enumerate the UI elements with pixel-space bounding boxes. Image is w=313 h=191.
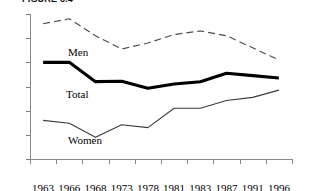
x-tick-label: 1978 [137, 182, 159, 191]
x-tick [161, 159, 162, 164]
series-label-men: Men [68, 46, 88, 58]
plot-area: 2345678 19631966196819731978198119831987… [30, 14, 292, 159]
x-tick [135, 159, 136, 164]
series-label-women: Women [68, 134, 102, 146]
x-tick-label: 1973 [111, 182, 133, 191]
x-tick [292, 159, 293, 164]
x-tick [213, 159, 214, 164]
series-label-total: Total [66, 88, 88, 100]
x-tick-label: 1983 [189, 182, 211, 191]
chart-title: FIGURE 3.4 [22, 0, 73, 4]
line-chart: FIGURE 3.4 2345678 196319661968197319781… [0, 0, 313, 191]
x-tick-label: 1996 [268, 182, 290, 191]
x-tick [187, 159, 188, 164]
x-tick [266, 159, 267, 164]
x-tick [56, 159, 57, 164]
x-tick [82, 159, 83, 164]
x-tick [109, 159, 110, 164]
x-tick-label: 1987 [216, 182, 238, 191]
x-tick [30, 159, 31, 164]
x-tick-label: 1981 [163, 182, 185, 191]
series-line-total [43, 62, 279, 88]
x-tick-label: 1966 [58, 182, 80, 191]
x-tick-label: 1963 [32, 182, 54, 191]
x-tick-label: 1968 [85, 182, 107, 191]
x-tick-label: 1991 [242, 182, 264, 191]
x-tick [240, 159, 241, 164]
